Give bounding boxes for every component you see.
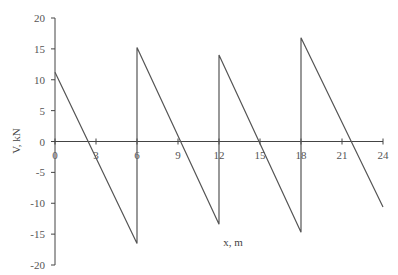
y-tick-label: 15: [34, 43, 46, 55]
y-tick-label: 5: [40, 105, 46, 117]
y-tick-label: 0: [40, 136, 46, 148]
y-tick-label: 20: [34, 12, 46, 24]
x-tick-label: 9: [175, 149, 181, 161]
y-tick-label: -5: [36, 166, 46, 178]
y-tick-label: 10: [34, 74, 46, 86]
x-axis-title: x, m: [223, 236, 243, 248]
y-tick-label: -10: [30, 197, 45, 209]
x-axis: 03691215182124: [52, 139, 389, 161]
y-tick-label: -20: [30, 259, 45, 271]
y-tick-label: -15: [30, 228, 45, 240]
y-axis: 20151050-5-10-15-20: [30, 12, 55, 271]
x-tick-label: 0: [52, 149, 58, 161]
shear-force-chart: 20151050-5-10-15-20 03691215182124 V, kN…: [0, 0, 398, 275]
x-tick-label: 15: [255, 149, 267, 161]
x-tick-label: 24: [378, 149, 390, 161]
x-tick-label: 21: [337, 149, 348, 161]
plot-area: [55, 38, 383, 244]
y-axis-title: V, kN: [10, 128, 22, 154]
shear-force-line: [55, 38, 383, 244]
